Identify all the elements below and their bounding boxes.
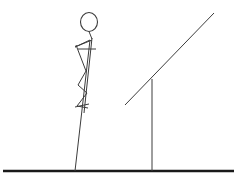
ramp-beam: [125, 13, 214, 105]
figure-head: [81, 13, 98, 32]
sketch-canvas: [0, 0, 240, 181]
stick-figure-group: [75, 13, 98, 172]
stick-figure-drawing: [0, 0, 240, 181]
figure-neck: [89, 32, 92, 40]
inclined-ramp-group: [125, 13, 214, 171]
figure-shin-upper: [78, 85, 87, 93]
